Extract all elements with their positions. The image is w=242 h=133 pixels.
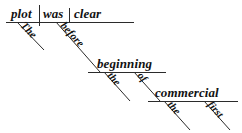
word-modifier-first: first (206, 99, 227, 120)
word-verb-was: was (43, 6, 64, 21)
word-object-commercial: commercial (155, 85, 219, 100)
sentence-diagram: plot was clear The before beginning the … (0, 0, 242, 133)
word-complement-clear: clear (74, 6, 102, 21)
word-preposition-before: before (59, 19, 88, 49)
word-modifier-the-commercial: the (166, 99, 184, 117)
word-object-beginning: beginning (97, 56, 152, 71)
word-subject-plot: plot (10, 6, 32, 21)
word-modifier-the-beginning: the (106, 70, 124, 88)
diagram-canvas: plot was clear The before beginning the … (0, 0, 242, 133)
